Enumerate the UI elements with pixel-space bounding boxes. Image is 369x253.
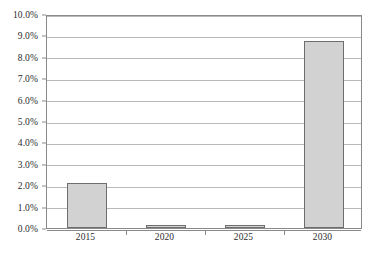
- y-axis-tick-label: 6.0%: [18, 96, 38, 106]
- y-axis-tick-label: 9.0%: [18, 31, 38, 41]
- x-axis-tick-label: 2020: [155, 232, 174, 242]
- bar-chart: 0.0%1.0%2.0%3.0%4.0%5.0%6.0%7.0%8.0%9.0%…: [0, 0, 369, 253]
- bar-band: [205, 16, 284, 228]
- x-axis-tick-label: 2015: [76, 232, 95, 242]
- y-axis-tick-label: 4.0%: [18, 138, 38, 148]
- bar-2020[interactable]: [146, 225, 186, 228]
- bar-band: [47, 16, 126, 228]
- x-axis: 2015202020252030: [46, 232, 362, 252]
- y-axis-tick-label: 7.0%: [18, 74, 38, 84]
- y-axis-tick-label: 3.0%: [18, 160, 38, 170]
- x-axis-tick-label: 2030: [313, 232, 332, 242]
- y-axis-tick-label: 5.0%: [18, 117, 38, 127]
- y-axis-tick-label: 0.0%: [18, 224, 38, 234]
- y-axis-tick-label: 1.0%: [18, 203, 38, 213]
- bar-band: [284, 16, 363, 228]
- bar-band: [126, 16, 205, 228]
- y-axis-tick-label: 8.0%: [18, 53, 38, 63]
- bar-2025[interactable]: [225, 225, 265, 228]
- y-axis: 0.0%1.0%2.0%3.0%4.0%5.0%6.0%7.0%8.0%9.0%…: [0, 0, 46, 253]
- bar-2015[interactable]: [67, 183, 107, 228]
- x-axis-tick-label: 2025: [234, 232, 253, 242]
- y-axis-tick-label: 2.0%: [18, 181, 38, 191]
- plot-area: [46, 15, 362, 229]
- bar-2030[interactable]: [304, 41, 344, 228]
- gridline: [47, 230, 361, 231]
- y-axis-tick-label: 10.0%: [13, 10, 38, 20]
